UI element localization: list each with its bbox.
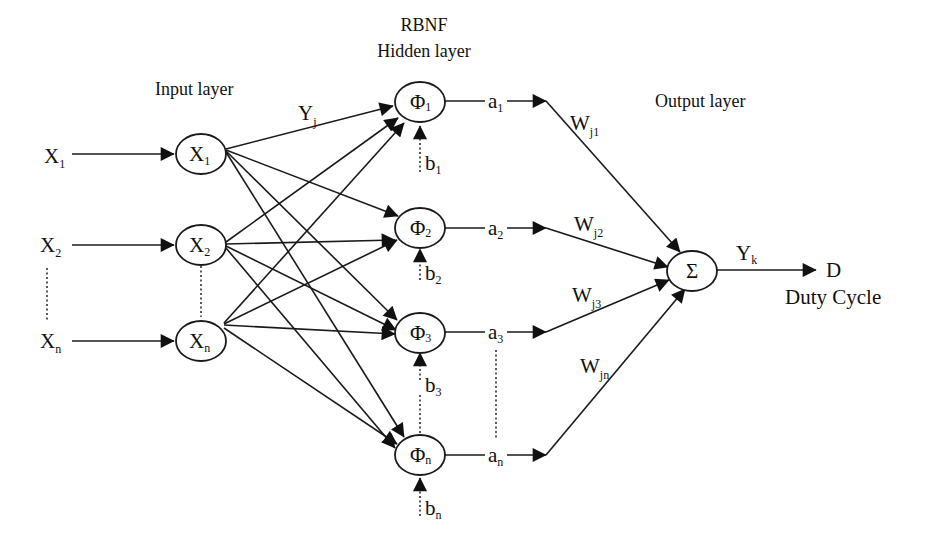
bias-label-bn: bn <box>425 496 442 522</box>
svg-text:X2: X2 <box>40 233 61 260</box>
activation-a3: a3 <box>488 320 503 346</box>
input-node-x1: X1 <box>176 134 226 174</box>
hidden-node-phi2: Φ2 <box>395 208 445 248</box>
hidden-input-label-yj: Yj <box>298 101 317 129</box>
output-layer-title: Output layer <box>655 91 745 111</box>
weight-label-wjn: Wjn <box>580 354 609 382</box>
bias-label-b1: b1 <box>425 151 442 177</box>
activation-an: an <box>488 443 503 469</box>
weight-label-wj1: Wj1 <box>570 111 599 139</box>
weight-edge-jn <box>546 289 685 455</box>
hidden-layer-title-line1: RBNF <box>400 15 447 35</box>
weight-edge-j3 <box>546 280 669 332</box>
bias-label-b2: b2 <box>425 261 442 287</box>
weight-label-wj2: Wj2 <box>574 212 603 240</box>
input-signal-x2: X2 <box>40 233 61 260</box>
activation-a2: a2 <box>488 216 503 242</box>
svg-text:X1: X1 <box>44 144 65 171</box>
rbf-network-diagram: Input layer RBNF Hidden layer Output lay… <box>0 0 926 544</box>
bias-label-b3: b3 <box>425 373 442 399</box>
input-hidden-connections <box>224 106 404 448</box>
hidden-node-phi1: Φ1 <box>395 82 445 122</box>
weight-edge-j2 <box>546 228 668 267</box>
activation-a1: a1 <box>488 89 503 115</box>
sigma-icon: Σ <box>686 259 698 283</box>
output-caption-duty-cycle: Duty Cycle <box>785 285 881 309</box>
input-node-xn: Xn <box>176 321 226 361</box>
output-signal-yk: Yk <box>736 241 757 267</box>
svg-text:Xn: Xn <box>40 329 61 356</box>
output-sum-node: Σ <box>667 251 717 291</box>
input-signal-xn: Xn <box>40 329 61 356</box>
input-layer-title: Input layer <box>155 79 233 99</box>
output-target-d: D <box>826 258 841 282</box>
hidden-node-phin: Φn <box>395 435 445 475</box>
weight-label-wj3: Wj3 <box>572 283 601 311</box>
input-signal-x1: X1 <box>44 144 65 171</box>
hidden-layer-title-line2: Hidden layer <box>377 41 470 61</box>
weight-edge-j1 <box>546 101 680 252</box>
input-node-x2: X2 <box>176 225 226 265</box>
hidden-node-phi3: Φ3 <box>395 313 445 353</box>
